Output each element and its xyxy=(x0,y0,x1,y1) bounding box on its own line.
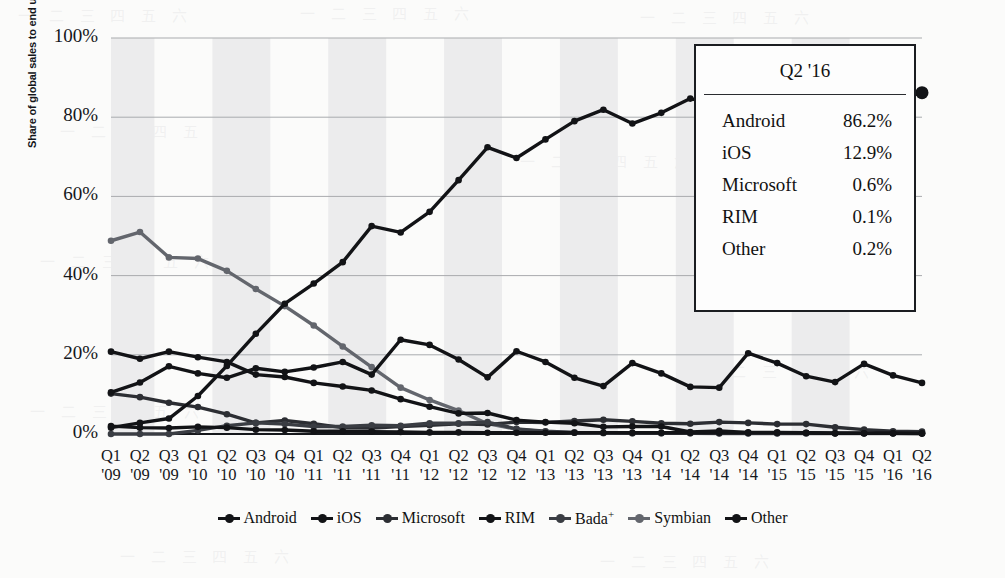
legend-label: Symbian xyxy=(654,509,711,527)
callout-label: Microsoft xyxy=(722,174,797,196)
callout-row-rim: RIM0.1% xyxy=(696,201,914,233)
y-tick-20: 20% xyxy=(36,342,98,364)
callout-value: 12.9% xyxy=(843,142,892,164)
callout-title: Q2 '16 xyxy=(696,46,914,94)
callout-value: 0.2% xyxy=(852,238,892,260)
legend-label: Android xyxy=(244,509,297,527)
callout-value: 0.1% xyxy=(852,206,892,228)
legend-label: Other xyxy=(751,509,787,527)
legend-label: RIM xyxy=(505,509,535,527)
legend-item-ios[interactable]: iOS xyxy=(311,509,362,527)
legend-marker-icon xyxy=(479,514,501,523)
callout-rows: Android86.2%iOS12.9%Microsoft0.6%RIM0.1%… xyxy=(696,105,914,265)
x-tick-Q2-16: Q2'16 xyxy=(905,446,939,484)
legend-marker-icon xyxy=(725,514,747,523)
y-tick-0: 0% xyxy=(36,421,98,443)
callout-row-microsoft: Microsoft0.6% xyxy=(696,169,914,201)
callout-row-other: Other0.2% xyxy=(696,233,914,265)
legend-label: iOS xyxy=(337,509,362,527)
callout-label: iOS xyxy=(722,142,752,164)
y-tick-40: 40% xyxy=(36,263,98,285)
callout-row-ios: iOS12.9% xyxy=(696,137,914,169)
y-tick-100: 100% xyxy=(36,25,98,47)
y-tick-80: 80% xyxy=(36,104,98,126)
callout-label: RIM xyxy=(722,206,758,228)
legend-item-other[interactable]: Other xyxy=(725,509,787,527)
legend-marker-icon xyxy=(549,514,571,523)
legend-marker-icon xyxy=(311,514,333,523)
legend-item-rim[interactable]: RIM xyxy=(479,509,535,527)
phone-os-market-share-chart: Share of global sales to end users 0%20%… xyxy=(0,0,1005,578)
q2-16-callout-box: Q2 '16 Android86.2%iOS12.9%Microsoft0.6%… xyxy=(694,44,916,312)
y-tick-60: 60% xyxy=(36,183,98,205)
legend-marker-icon xyxy=(376,514,398,523)
legend-label: Bada+ xyxy=(575,508,614,528)
legend-label: Microsoft xyxy=(402,509,465,527)
legend-marker-icon xyxy=(218,514,240,523)
legend-item-bada[interactable]: Bada+ xyxy=(549,508,614,528)
callout-row-android: Android86.2% xyxy=(696,105,914,137)
chart-legend: AndroidiOSMicrosoftRIMBada+SymbianOther xyxy=(0,508,1005,528)
legend-item-microsoft[interactable]: Microsoft xyxy=(376,509,465,527)
legend-item-android[interactable]: Android xyxy=(218,509,297,527)
callout-divider xyxy=(704,94,906,95)
callout-value: 0.6% xyxy=(852,174,892,196)
callout-value: 86.2% xyxy=(843,110,892,132)
legend-marker-icon xyxy=(628,514,650,523)
callout-label: Android xyxy=(722,110,785,132)
callout-label: Other xyxy=(722,238,765,260)
legend-item-symbian[interactable]: Symbian xyxy=(628,509,711,527)
